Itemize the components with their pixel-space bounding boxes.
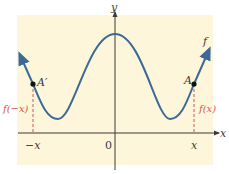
- tick-neg-x: −x: [25, 139, 41, 152]
- origin-label: 0: [105, 139, 112, 152]
- label-a: A: [183, 74, 192, 87]
- tick-pos-x: x: [191, 139, 198, 152]
- x-axis-label: x: [220, 127, 227, 140]
- curve-right-tail: [194, 50, 209, 84]
- function-label: f: [202, 35, 209, 48]
- y-axis-label: y: [110, 1, 118, 14]
- value-label-left: f(−x): [2, 103, 29, 114]
- label-a-prime: A′: [36, 76, 48, 89]
- point-a-prime: [30, 81, 35, 86]
- curve-left-tail: [20, 55, 33, 84]
- point-a: [191, 81, 196, 86]
- value-label-right: f(x): [198, 103, 216, 114]
- even-function-graph: y x 0 −x x A′ A f f(−x) f(x): [0, 0, 229, 174]
- function-curve: [33, 34, 194, 119]
